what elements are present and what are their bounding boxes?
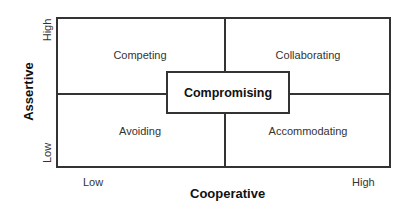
x-axis-title: Cooperative xyxy=(190,186,265,201)
y-low-label: Low xyxy=(41,138,53,168)
center-compromising: Compromising xyxy=(166,71,290,114)
quadrant-avoiding: Avoiding xyxy=(80,125,200,137)
y-axis-title: Assertive xyxy=(21,52,36,132)
conflict-mode-diagram: Competing Collaborating Avoiding Accommo… xyxy=(0,0,418,205)
y-high-label: High xyxy=(41,15,53,45)
quadrant-collaborating: Collaborating xyxy=(248,49,368,61)
quadrant-competing: Competing xyxy=(80,49,200,61)
quadrant-accommodating: Accommodating xyxy=(248,125,368,137)
x-high-label: High xyxy=(352,176,375,188)
x-low-label: Low xyxy=(83,176,103,188)
